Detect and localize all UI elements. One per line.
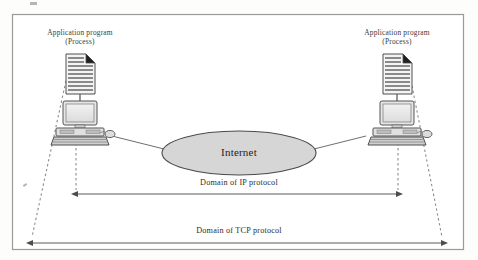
- tcp-domain-label: Domain of TCP protocol: [159, 226, 319, 235]
- left-node-label-line2: (Process): [32, 38, 128, 47]
- left-node-label: Application program (Process): [32, 29, 128, 46]
- ip-domain-label: Domain of IP protocol: [164, 178, 314, 187]
- internet-cloud-label: Internet: [190, 146, 288, 159]
- figure-canvas: Application program (Process) Applicatio…: [0, 0, 478, 260]
- scan-artifact: [30, 2, 37, 5]
- document-page-icon: [383, 54, 412, 94]
- right-node-label-line2: (Process): [349, 38, 445, 47]
- right-node-label: Application program (Process): [349, 29, 445, 46]
- document-page-icon: [66, 54, 95, 94]
